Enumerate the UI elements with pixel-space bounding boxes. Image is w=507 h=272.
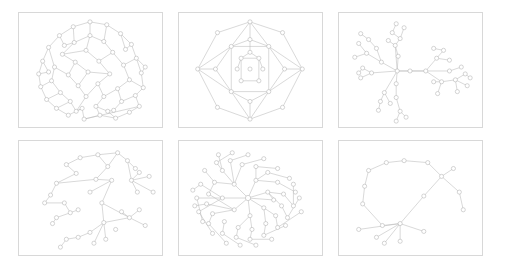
graph-node [129, 178, 133, 182]
graph-edge [73, 27, 74, 43]
graph-edge [102, 203, 130, 218]
graph-edge [215, 69, 231, 92]
graph-node [382, 91, 386, 95]
graph-canvas-panel-3-two-hub-tree [339, 13, 482, 127]
graph-node [210, 231, 214, 235]
graph-edge [459, 192, 463, 210]
graph-node [102, 221, 106, 225]
graph-node [291, 204, 295, 208]
graph-edge [80, 155, 98, 158]
graph-node [432, 80, 436, 84]
graph-node [62, 201, 66, 205]
graph-node [119, 210, 123, 214]
graph-node [254, 178, 258, 182]
graph-node [210, 212, 214, 216]
graph-node [393, 43, 397, 47]
graph-edge [365, 170, 369, 186]
graph-edge [268, 192, 284, 194]
graph-node [439, 80, 443, 84]
graph-node [234, 235, 238, 239]
graph-edge [213, 210, 235, 214]
graph-node [106, 109, 110, 113]
graph-edge [250, 92, 269, 102]
graph-node [408, 69, 412, 73]
graph-node [432, 46, 436, 50]
graph-panel-6 [338, 140, 483, 256]
graph-node [137, 104, 141, 108]
graph-edge [102, 180, 112, 203]
graph-edge [283, 69, 303, 107]
graph-edge [264, 226, 286, 236]
graph-edge [372, 71, 398, 73]
graph-node [137, 170, 141, 174]
graph-edge [217, 22, 250, 33]
graph-node [104, 237, 108, 241]
graph-node [422, 229, 426, 233]
graph-edge [248, 198, 274, 200]
graph-node [281, 192, 285, 196]
graph-edge [55, 67, 69, 75]
graph-edge [90, 22, 107, 25]
node-layer [37, 20, 148, 121]
graph-node [266, 170, 270, 174]
graph-node [47, 45, 51, 49]
graph-node [129, 42, 133, 46]
graph-node [48, 193, 52, 197]
graph-node [261, 67, 265, 71]
graph-node [68, 211, 72, 215]
graph-node [266, 190, 270, 194]
graph-edge [49, 36, 60, 48]
graph-edge [269, 69, 285, 92]
graph-edge [363, 204, 383, 226]
graph-node [39, 85, 43, 89]
graph-node [257, 56, 261, 60]
graph-edge [256, 167, 278, 169]
graph-node [276, 225, 280, 229]
graph-edge [84, 115, 100, 119]
graph-node [357, 71, 361, 75]
graph-node [300, 67, 304, 71]
graph-node [114, 227, 118, 231]
graph-node [369, 71, 373, 75]
graph-edge [56, 179, 95, 183]
graph-node [88, 20, 92, 24]
graph-node [143, 65, 147, 69]
graph-edge [75, 62, 88, 72]
graph-panel-2 [178, 12, 323, 128]
graph-node [229, 90, 233, 94]
graph-node [57, 34, 61, 38]
graph-node [254, 164, 258, 168]
graph-edge [283, 33, 303, 69]
graph-edge [369, 163, 387, 171]
graph-node [86, 70, 90, 74]
graph-node [388, 101, 392, 105]
graph-node [367, 37, 371, 41]
graph-node [447, 69, 451, 73]
graph-node [229, 44, 233, 48]
graph-edge [73, 22, 90, 27]
graph-node [106, 164, 110, 168]
graph-node [68, 99, 72, 103]
graph-node [96, 82, 100, 86]
graph-edge [96, 179, 112, 180]
graph-node [357, 41, 361, 45]
graph-node [363, 184, 367, 188]
graph-panel-5 [178, 140, 323, 256]
graph-node [457, 190, 461, 194]
graph-node [291, 182, 295, 186]
graph-node [235, 67, 239, 71]
graph-edge [230, 155, 248, 161]
graph-node [62, 43, 66, 47]
graph-node [60, 52, 64, 56]
graph-node [239, 56, 243, 60]
graph-edge [104, 25, 107, 42]
graph-node [365, 51, 369, 55]
graph-node [379, 60, 383, 64]
graph-node [102, 94, 106, 98]
graph-node [108, 72, 112, 76]
graph-node [459, 65, 463, 69]
graph-node [220, 231, 224, 235]
graph-node [205, 202, 209, 206]
graph-node [386, 38, 390, 42]
graph-edge [198, 69, 232, 92]
